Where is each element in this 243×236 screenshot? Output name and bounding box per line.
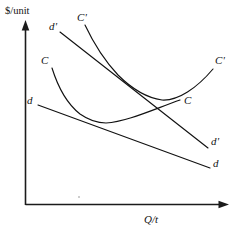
label-c-right: C — [184, 95, 192, 106]
curve-c-prime — [85, 25, 213, 100]
label-c-prime-top: C' — [77, 12, 87, 23]
label-d-prime-top: d' — [49, 21, 57, 32]
economics-diagram: $/unit Q/t C' C' C C d' d' d d — [0, 0, 243, 236]
x-axis-arrow-icon — [219, 201, 230, 208]
x-axis-label: Q/t — [144, 214, 158, 225]
scan-speck — [78, 196, 80, 198]
y-axis-arrow-icon — [22, 20, 30, 31]
label-c-prime-right: C' — [215, 55, 225, 66]
label-d-right: d — [213, 158, 219, 169]
x-axis — [26, 201, 230, 208]
line-d-prime — [60, 32, 208, 148]
label-c-left: C — [41, 55, 49, 66]
label-d-prime-right: d' — [211, 136, 219, 147]
y-axis — [22, 20, 30, 205]
line-d — [38, 105, 210, 168]
y-axis-label: $/unit — [5, 6, 30, 17]
label-d-left: d — [27, 95, 33, 106]
diagram-canvas — [0, 0, 243, 236]
